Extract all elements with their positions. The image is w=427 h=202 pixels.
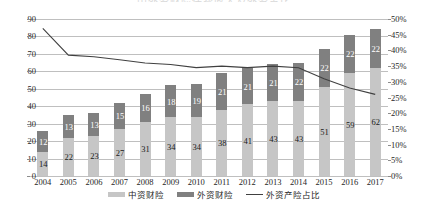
legend-label: 外资财险 <box>197 188 233 200</box>
y-axis-left-tickmark <box>27 19 30 20</box>
y-axis-right-tick: 40% <box>391 46 407 55</box>
y-axis-right-tick: 30% <box>391 78 407 87</box>
gridline <box>30 176 388 177</box>
legend-label: 中资财险 <box>128 188 164 200</box>
plot-area: 1412221323132715311634183419382141214321… <box>30 19 388 176</box>
y-axis-right-tickmark <box>388 35 391 36</box>
y-axis-right-tick: 35% <box>391 62 407 71</box>
y-axis-right-tickmark <box>388 160 391 161</box>
y-axis-right-tick: 15% <box>391 125 407 134</box>
y-axis-right-tickmark <box>388 129 391 130</box>
chart-title: 中外资财险保费收入及外资占比 <box>0 0 427 2</box>
legend-item[interactable]: 中资财险 <box>108 188 164 200</box>
line-series <box>30 19 388 176</box>
y-axis-right-tick: 50% <box>391 15 407 24</box>
x-axis-tick: 2017 <box>360 178 390 187</box>
y-axis-right-tickmark <box>388 113 391 114</box>
y-axis-right-tick: 0% <box>391 172 402 181</box>
y-axis-left-tickmark <box>27 89 30 90</box>
y-axis-left-tickmark <box>27 159 30 160</box>
y-axis-right-tickmark <box>388 50 391 51</box>
y-axis-left-tickmark <box>27 36 30 37</box>
y-axis-right-tickmark <box>388 98 391 99</box>
y-axis-right-tickmark <box>388 66 391 67</box>
y-axis-left-tickmark <box>27 124 30 125</box>
y-axis-left-tickmark <box>27 106 30 107</box>
legend-swatch-icon <box>177 192 194 197</box>
y-axis-left-tickmark <box>27 141 30 142</box>
legend-item[interactable]: 外资财险 <box>177 188 233 200</box>
legend-label: 外资产险占比 <box>266 188 320 200</box>
y-axis-right-tick: 20% <box>391 109 407 118</box>
legend-line-icon <box>246 194 263 195</box>
y-axis-left-tickmark <box>27 54 30 55</box>
y-axis-right-tickmark <box>388 19 391 20</box>
y-axis-left-tickmark <box>27 176 30 177</box>
legend-swatch-icon <box>108 192 125 197</box>
y-axis-left-tickmark <box>27 71 30 72</box>
y-axis-right-tick: 10% <box>391 141 407 150</box>
legend-item[interactable]: 外资产险占比 <box>246 188 320 200</box>
y-axis-right-tickmark <box>388 176 391 177</box>
chart-container: 中外资财险保费收入及外资占比 1412221323132715311634183… <box>0 0 427 202</box>
y-axis-right-tickmark <box>388 145 391 146</box>
chart-legend: 中资财险外资财险外资产险占比 <box>0 188 427 200</box>
y-axis-right-tick: 5% <box>391 156 402 165</box>
y-axis-right-tick: 45% <box>391 31 407 40</box>
y-axis-right-tickmark <box>388 82 391 83</box>
y-axis-right-tick: 25% <box>391 94 407 103</box>
